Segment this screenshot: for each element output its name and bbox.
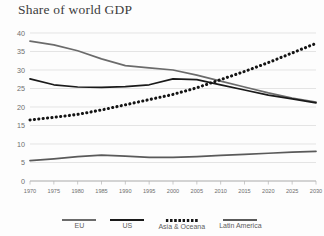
svg-text:2005: 2005 xyxy=(191,188,203,194)
series-line-asia-oceana xyxy=(30,43,316,120)
svg-text:35: 35 xyxy=(17,47,25,56)
legend-label: Latin America xyxy=(219,222,261,229)
svg-text:30: 30 xyxy=(17,66,25,75)
svg-text:0: 0 xyxy=(21,177,25,186)
svg-text:1980: 1980 xyxy=(71,188,83,194)
legend-item-us[interactable]: US xyxy=(110,219,144,229)
legend-item-eu[interactable]: EU xyxy=(62,219,96,229)
legend-label: Asia & Oceana xyxy=(158,223,205,230)
svg-text:25: 25 xyxy=(17,84,25,93)
legend-swatch-icon xyxy=(165,219,199,222)
legend-swatch-icon xyxy=(110,219,144,221)
svg-text:2020: 2020 xyxy=(262,188,274,194)
x-axis xyxy=(30,181,316,185)
legend-swatch-icon xyxy=(62,219,96,221)
svg-text:2030: 2030 xyxy=(310,188,322,194)
legend-label: US xyxy=(123,222,133,229)
svg-text:1970: 1970 xyxy=(24,188,36,194)
chart-figure: Share of world GDP 0510152025303540 1970… xyxy=(0,0,324,236)
chart-plot-area: 0510152025303540 19701975198019851990199… xyxy=(0,0,324,236)
svg-text:2015: 2015 xyxy=(238,188,250,194)
data-series xyxy=(30,41,316,161)
svg-text:20: 20 xyxy=(17,103,25,112)
y-axis-tick-labels: 0510152025303540 xyxy=(17,29,25,186)
svg-text:2000: 2000 xyxy=(167,188,179,194)
legend-swatch-icon xyxy=(223,219,257,221)
svg-text:40: 40 xyxy=(17,29,25,38)
legend-item-asia-oceana[interactable]: Asia & Oceana xyxy=(158,219,205,230)
series-line-latin-america xyxy=(30,151,316,160)
legend-item-latin-america[interactable]: Latin America xyxy=(219,219,261,229)
svg-text:2025: 2025 xyxy=(286,188,298,194)
svg-text:1985: 1985 xyxy=(95,188,107,194)
gridlines xyxy=(30,33,316,181)
x-axis-tick-labels: 1970197519801985199019952000200520102015… xyxy=(24,188,322,194)
svg-text:10: 10 xyxy=(17,140,25,149)
svg-text:15: 15 xyxy=(17,121,25,130)
series-line-us xyxy=(30,79,316,103)
legend-label: EU xyxy=(75,222,85,229)
svg-text:2010: 2010 xyxy=(214,188,226,194)
svg-text:1995: 1995 xyxy=(143,188,155,194)
svg-text:5: 5 xyxy=(21,158,25,167)
svg-text:1990: 1990 xyxy=(119,188,131,194)
chart-legend: EUUSAsia & OceanaLatin America xyxy=(0,219,324,230)
svg-text:1975: 1975 xyxy=(48,188,60,194)
